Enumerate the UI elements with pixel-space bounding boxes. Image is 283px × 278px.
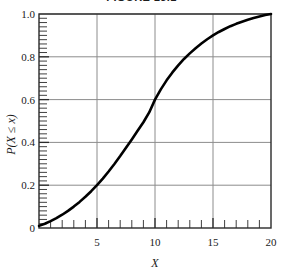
x-tick-label-15: 15 [208, 236, 219, 248]
y-tick-label-0.8: 0.8 [2, 51, 35, 63]
y-axis-title: P(X ≤ x) [4, 103, 19, 167]
figure-container: FIGURE 13.1 [0, 0, 283, 278]
vertical-gridlines [97, 14, 213, 228]
y-tick-label-0: 0 [2, 222, 35, 234]
chart-plot-area [0, 0, 283, 278]
y-axis-minor-ticks [39, 18, 47, 223]
y-tick-label-1.0: 1.0 [2, 8, 35, 20]
x-axis-title: X [151, 256, 158, 271]
y-tick-label-0.2: 0.2 [2, 179, 35, 191]
x-tick-label-10: 10 [150, 236, 161, 248]
x-axis-major-ticks [97, 218, 213, 228]
x-tick-label-20: 20 [266, 236, 277, 248]
x-tick-label-5: 5 [94, 236, 100, 248]
